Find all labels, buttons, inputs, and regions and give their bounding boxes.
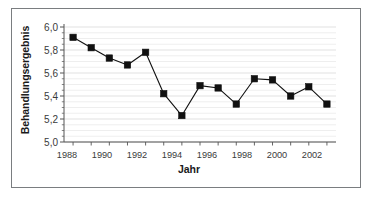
axis-ticks (60, 27, 327, 146)
x-tick-label-1990: 1990 (82, 150, 122, 160)
x-tick-label-1988: 1988 (47, 150, 87, 160)
y-tick-label-5-2: 5,2 (32, 114, 58, 125)
x-tick-label-1994: 1994 (152, 150, 192, 160)
data-series-behandlungsergebnis (70, 34, 330, 119)
y-tick-label-5-6: 5,6 (32, 68, 58, 79)
y-axis-title: Behandlungsergebnis (19, 17, 31, 143)
x-tick-label-2000: 2000 (257, 150, 297, 160)
y-tick-label-5-0: 5,0 (32, 137, 58, 148)
x-axis-title: Jahr (0, 163, 378, 175)
x-tick-label-1992: 1992 (117, 150, 157, 160)
y-tick-label-6-0: 6,0 (32, 22, 58, 33)
y-tick-label-5-4: 5,4 (32, 91, 58, 102)
y-tick-label-5-8: 5,8 (32, 45, 58, 56)
chart-figure: 6,0 5,8 5,6 5,4 5,2 5,0 1988 1990 1992 1… (0, 0, 378, 203)
x-tick-label-1996: 1996 (187, 150, 227, 160)
x-tick-label-2002: 2002 (292, 150, 332, 160)
x-tick-label-1998: 1998 (222, 150, 262, 160)
